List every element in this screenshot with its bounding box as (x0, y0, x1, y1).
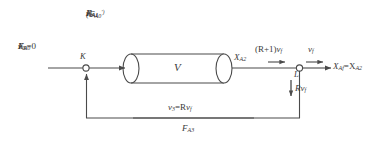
recycle-down-label: Rvf (295, 84, 306, 93)
reactor-recycle-diagram: FA0 v0 X0=0 K (FA0′) FA1 XA1 v1 V XA2 (0, 0, 375, 142)
feed-conversion-label: X0=0 (18, 42, 36, 51)
inlet-volumetric-flow-label: v1 (86, 9, 93, 18)
combined-flow-label: (R+1)vf (255, 45, 282, 54)
split-point-label: L (294, 70, 299, 79)
recycle-line (87, 69, 300, 118)
reactor-volume-label: V (174, 62, 181, 74)
diagram-canvas (0, 0, 375, 142)
mix-point-node (83, 65, 89, 71)
product-conversion-label: XAf=XA2 (333, 62, 362, 71)
product-volumetric-flow-label: vf (308, 45, 314, 54)
outlet-conversion-label: XA2 (234, 53, 246, 62)
recycle-volumetric-flow-label: v3=Rvf (168, 103, 192, 112)
mix-point-label: K (80, 52, 86, 61)
recycle-molar-flow-label: FA3 (182, 124, 194, 133)
